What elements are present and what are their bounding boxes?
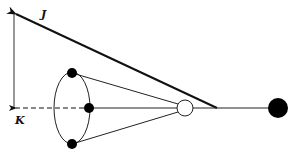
cone-line-top [72,73,178,104]
cone-line-bottom [72,112,178,144]
open-circle-node [177,100,193,116]
bottom-dot-node [67,139,77,149]
vector-j-line [16,14,217,108]
top-dot-node [67,68,77,78]
diagram-canvas [0,0,300,153]
label-j: J [41,8,46,21]
label-k: K [15,114,25,127]
large-dot-node [268,98,288,118]
middle-dot-node [84,103,94,113]
